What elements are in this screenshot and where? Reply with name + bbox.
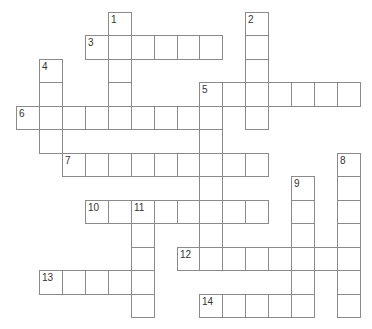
crossword-cell[interactable] xyxy=(108,106,132,130)
crossword-cell[interactable] xyxy=(222,82,246,107)
crossword-cell[interactable] xyxy=(337,200,361,224)
crossword-cell[interactable] xyxy=(222,247,246,271)
crossword-cell[interactable]: 7 xyxy=(62,153,86,177)
crossword-cell[interactable] xyxy=(245,200,269,224)
clue-number: 6 xyxy=(19,108,25,119)
crossword-cell[interactable] xyxy=(108,59,132,83)
crossword-cell[interactable] xyxy=(199,106,223,130)
crossword-cell[interactable] xyxy=(337,82,361,107)
crossword-cell[interactable] xyxy=(108,200,132,224)
crossword-cell[interactable] xyxy=(245,35,269,60)
crossword-cell[interactable] xyxy=(85,106,109,130)
crossword-cell[interactable] xyxy=(337,176,361,201)
crossword-cell[interactable] xyxy=(337,294,361,318)
crossword-cell[interactable]: 8 xyxy=(337,153,361,177)
crossword-cell[interactable] xyxy=(291,270,315,295)
crossword-cell[interactable] xyxy=(245,153,269,177)
crossword-cell[interactable]: 2 xyxy=(245,12,269,36)
crossword-cell[interactable]: 1 xyxy=(108,12,132,36)
crossword-cell[interactable] xyxy=(154,106,178,130)
crossword-cell[interactable] xyxy=(314,247,338,271)
clue-number: 8 xyxy=(340,155,346,166)
crossword-cell[interactable] xyxy=(108,153,132,177)
clue-number: 4 xyxy=(42,61,48,72)
clue-number: 13 xyxy=(42,272,53,283)
clue-number: 3 xyxy=(88,37,94,48)
crossword-cell[interactable] xyxy=(199,176,223,201)
crossword-cell[interactable] xyxy=(39,106,63,130)
crossword-cell[interactable] xyxy=(222,200,246,224)
crossword-cell[interactable] xyxy=(131,106,155,130)
clue-number: 10 xyxy=(88,202,99,213)
crossword-grid: 1234567891011121314 xyxy=(0,0,372,329)
crossword-cell[interactable] xyxy=(85,153,109,177)
crossword-cell[interactable] xyxy=(154,153,178,177)
crossword-cell[interactable]: 10 xyxy=(85,200,109,224)
crossword-cell[interactable] xyxy=(245,294,269,318)
crossword-cell[interactable]: 14 xyxy=(199,294,223,318)
crossword-cell[interactable] xyxy=(199,35,223,60)
crossword-cell[interactable] xyxy=(245,247,269,271)
crossword-cell[interactable] xyxy=(199,223,223,248)
crossword-cell[interactable]: 9 xyxy=(291,176,315,201)
crossword-cell[interactable] xyxy=(131,223,155,248)
crossword-cell[interactable] xyxy=(291,223,315,248)
crossword-cell[interactable] xyxy=(108,82,132,107)
crossword-cell[interactable] xyxy=(62,270,86,295)
crossword-cell[interactable] xyxy=(108,270,132,295)
crossword-cell[interactable] xyxy=(268,247,292,271)
crossword-cell[interactable]: 6 xyxy=(16,106,40,130)
crossword-cell[interactable]: 3 xyxy=(85,35,109,60)
crossword-cell[interactable] xyxy=(177,106,200,130)
crossword-cell[interactable] xyxy=(177,35,200,60)
crossword-cell[interactable] xyxy=(314,82,338,107)
crossword-cell[interactable] xyxy=(222,153,246,177)
crossword-cell[interactable] xyxy=(177,153,200,177)
crossword-cell[interactable] xyxy=(291,294,315,318)
crossword-cell[interactable] xyxy=(199,200,223,224)
crossword-cell[interactable]: 5 xyxy=(199,82,223,107)
crossword-cell[interactable] xyxy=(62,106,86,130)
crossword-cell[interactable] xyxy=(131,153,155,177)
crossword-cell[interactable] xyxy=(177,200,200,224)
crossword-cell[interactable]: 4 xyxy=(39,59,63,83)
clue-number: 9 xyxy=(294,178,300,189)
crossword-cell[interactable] xyxy=(291,200,315,224)
crossword-cell[interactable] xyxy=(154,200,178,224)
clue-number: 12 xyxy=(180,249,191,260)
crossword-cell[interactable] xyxy=(131,270,155,295)
crossword-cell[interactable]: 13 xyxy=(39,270,63,295)
clue-number: 2 xyxy=(248,14,254,25)
clue-number: 11 xyxy=(134,202,144,213)
crossword-cell[interactable] xyxy=(154,35,178,60)
crossword-cell[interactable] xyxy=(337,270,361,295)
crossword-cell[interactable] xyxy=(131,35,155,60)
clue-number: 1 xyxy=(111,14,117,25)
crossword-cell[interactable] xyxy=(199,129,223,154)
crossword-cell[interactable] xyxy=(131,294,155,318)
crossword-cell[interactable] xyxy=(245,82,269,107)
crossword-cell[interactable] xyxy=(222,294,246,318)
crossword-cell[interactable] xyxy=(108,35,132,60)
clue-number: 7 xyxy=(65,155,71,166)
crossword-cell[interactable] xyxy=(85,270,109,295)
crossword-cell[interactable] xyxy=(337,247,361,271)
crossword-cell[interactable] xyxy=(268,294,292,318)
crossword-cell[interactable] xyxy=(245,59,269,83)
crossword-cell[interactable] xyxy=(268,82,292,107)
clue-number: 5 xyxy=(202,84,208,95)
crossword-cell[interactable] xyxy=(291,247,315,271)
clue-number: 14 xyxy=(202,296,213,307)
crossword-cell[interactable]: 12 xyxy=(177,247,200,271)
crossword-cell[interactable] xyxy=(199,247,223,271)
crossword-cell[interactable] xyxy=(39,82,63,107)
crossword-cell[interactable] xyxy=(39,129,63,154)
crossword-cell[interactable] xyxy=(245,106,269,130)
crossword-cell[interactable] xyxy=(131,247,155,271)
crossword-cell[interactable] xyxy=(291,82,315,107)
crossword-cell[interactable] xyxy=(337,223,361,248)
crossword-cell[interactable]: 11 xyxy=(131,200,155,224)
crossword-cell[interactable] xyxy=(199,153,223,177)
